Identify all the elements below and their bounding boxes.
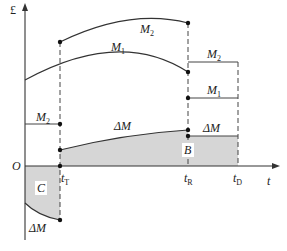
x-axis-arrow-icon [272,163,280,169]
dot-m2-tR [186,21,190,25]
region-b-shade [60,130,238,166]
dot-m2-tT [58,40,62,44]
dot-m1-tR [186,70,190,74]
x-axis-label: t [267,174,271,188]
y-axis-label: £ [10,3,16,17]
m1-right-label: M1 [206,83,221,99]
dot-deltam-tR [186,128,190,132]
origin-label: O [12,159,21,173]
tT-label: tT [61,171,69,187]
m2-top-label: M2 [139,22,154,38]
dot-axis-tT [58,164,62,168]
m2-right-label: M2 [206,47,221,63]
delta-m-right-label: ΔM [202,121,221,135]
dot-m1box-tR [186,96,190,100]
region-c-label: C [37,181,46,195]
m2-left-label: M2 [35,110,50,126]
m2-top-curve [60,18,188,42]
dot-bottom-tT [58,218,62,222]
dot-deltam-tT [58,148,62,152]
tR-label: tR [184,171,193,187]
delta-m-bottom-label: ΔM [28,221,47,235]
y-axis-arrow-icon [22,3,28,11]
m1-curve [25,52,188,80]
delta-m-center-label: ΔM [113,119,132,133]
tD-label: tD [233,171,242,187]
economics-diagram: £ t O tT tR tD M2 M1 M2 ΔM M2 M1 ΔM ΔM B… [0,0,287,251]
dot-deltambox-tR [186,134,190,138]
dot-m2left-tT [58,122,62,126]
region-b-label: B [184,143,192,157]
m1-mid-label: M1 [110,40,125,56]
